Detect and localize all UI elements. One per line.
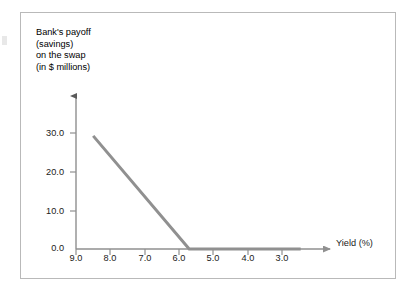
x-tick-label-4: 4.0 [231,253,265,263]
y-tick-label-30: 30.0 [30,128,64,138]
x-tick-label-8: 8.0 [93,253,127,263]
x-axis-title: Yield (%) [336,238,373,248]
x-tick-label-7: 7.0 [128,253,162,263]
y-tick-label-0: 0.0 [30,243,64,253]
x-tick-label-6: 6.0 [162,253,196,263]
y-tick-label-20: 20.0 [30,167,64,177]
x-tick-label-9: 9.0 [59,253,93,263]
x-tick-label-5: 5.0 [196,253,230,263]
x-tick-label-3: 3.0 [265,253,299,263]
payoff-series-line [93,136,301,249]
y-tick-label-10: 10.0 [30,206,64,216]
